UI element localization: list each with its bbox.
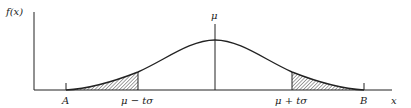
normal-distribution-diagram: f(x) μ A μ − tσ μ + tσ B x — [0, 0, 411, 108]
x-axis-label: x — [391, 95, 397, 106]
lower-bound-label: μ − tσ — [121, 95, 154, 106]
b-label: B — [359, 95, 367, 106]
a-label: A — [61, 95, 69, 106]
left-tail-shading — [66, 72, 138, 90]
mu-label: μ — [211, 10, 218, 21]
right-tail-shading — [292, 72, 364, 90]
upper-bound-label: μ + tσ — [275, 95, 308, 106]
y-axis-label: f(x) — [5, 6, 23, 17]
